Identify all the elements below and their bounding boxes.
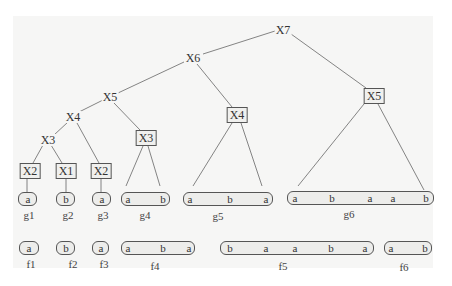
- symbol: a: [26, 193, 31, 205]
- symbol: a: [187, 242, 192, 254]
- pill-f1: a: [19, 241, 39, 255]
- caption-f5: f5: [278, 261, 287, 272]
- caption-f1: f1: [26, 259, 35, 270]
- caption-f6: f6: [399, 262, 408, 273]
- caption-g4: g4: [140, 210, 151, 221]
- pill-g5: a b a: [183, 192, 273, 206]
- boxed-node-x5: X5: [364, 88, 385, 104]
- symbol: b: [63, 193, 69, 205]
- caption-g1: g1: [24, 210, 35, 221]
- node-x3: X3: [40, 134, 57, 146]
- symbol: a: [264, 242, 269, 254]
- boxed-node-x2-right: X2: [91, 163, 112, 179]
- symbol: b: [160, 193, 166, 205]
- symbol: a: [363, 242, 368, 254]
- pill-g3: a: [92, 192, 111, 206]
- caption-f3: f3: [99, 259, 108, 270]
- symbol: a: [100, 193, 105, 205]
- caption-g3: g3: [98, 210, 109, 221]
- symbol: a: [126, 242, 131, 254]
- node-x5: X5: [102, 91, 119, 103]
- symbol: b: [227, 242, 233, 254]
- caption-g5: g5: [213, 211, 224, 222]
- pill-f6: a b: [384, 241, 432, 255]
- boxed-node-x2-left: X2: [20, 163, 41, 179]
- symbol: a: [389, 242, 394, 254]
- symbol: a: [99, 242, 104, 254]
- symbol: a: [188, 193, 193, 205]
- symbol: a: [126, 193, 131, 205]
- symbol: a: [293, 242, 298, 254]
- symbol: b: [227, 193, 233, 205]
- symbol: b: [423, 192, 429, 204]
- pill-f4: a b a: [121, 241, 195, 255]
- caption-g2: g2: [63, 210, 74, 221]
- pill-g4: a b: [121, 192, 170, 206]
- node-x6: X6: [185, 52, 202, 64]
- symbol: a: [27, 242, 32, 254]
- symbol: b: [160, 242, 166, 254]
- symbol: b: [422, 242, 428, 254]
- symbol: b: [63, 242, 69, 254]
- pill-g2: b: [56, 192, 75, 206]
- symbol: a: [391, 192, 396, 204]
- symbol: a: [368, 192, 373, 204]
- pill-f3: a: [92, 241, 109, 255]
- caption-f2: f2: [68, 259, 77, 270]
- boxed-node-x3: X3: [136, 130, 157, 146]
- pill-g6: a b a a b: [287, 191, 434, 205]
- symbol: a: [264, 193, 269, 205]
- symbol: b: [328, 242, 334, 254]
- pill-f5: b a a b a: [220, 241, 374, 255]
- symbol: a: [293, 192, 298, 204]
- node-x7: X7: [275, 24, 292, 36]
- boxed-node-x4: X4: [227, 107, 248, 123]
- caption-f4: f4: [150, 261, 159, 272]
- tree-diagram: X7 X6 X5 X4 X3 X3 X4 X5 X2 X1 X2 a b a a…: [0, 0, 452, 286]
- symbol: b: [329, 192, 335, 204]
- pill-g1: a: [18, 192, 37, 206]
- boxed-node-x1: X1: [56, 163, 77, 179]
- caption-g6: g6: [344, 209, 355, 220]
- node-x4: X4: [65, 111, 82, 123]
- pill-f2: b: [56, 241, 75, 255]
